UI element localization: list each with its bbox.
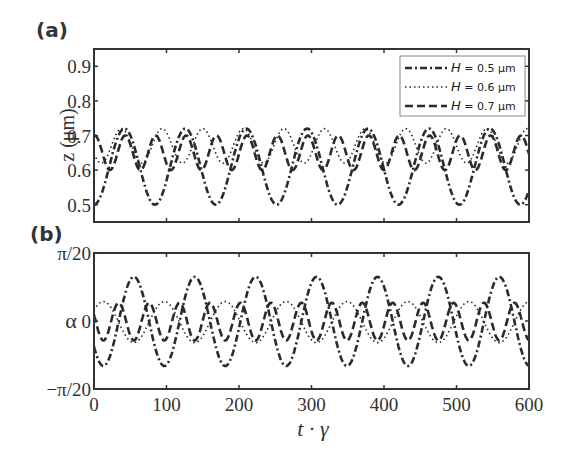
x-tick-label: 500 bbox=[442, 394, 471, 415]
legend: H = 0.5 μmH = 0.6 μmH = 0.7 μm bbox=[400, 56, 525, 116]
y-axis-label-a: z (μm) bbox=[56, 108, 79, 161]
y-tick-label: 0.6 bbox=[67, 160, 91, 181]
x-axis-label: t · γ bbox=[297, 416, 330, 441]
panel-b-plot: 0100200300400500600−π/200π/20 bbox=[46, 243, 543, 415]
series-line bbox=[94, 302, 529, 343]
x-tick-label: 600 bbox=[515, 394, 544, 415]
y-tick-label: 0.9 bbox=[67, 56, 91, 77]
x-tick-label: 400 bbox=[370, 394, 399, 415]
legend-entry: H = 0.7 μm bbox=[451, 98, 516, 113]
series-line bbox=[94, 136, 529, 171]
series-line bbox=[94, 277, 529, 366]
x-tick-label: 300 bbox=[297, 394, 326, 415]
y-tick-label: 0.5 bbox=[67, 195, 91, 216]
y-axis-label-b: α bbox=[65, 308, 77, 333]
y-tick-label: π/20 bbox=[57, 243, 91, 264]
figure-canvas: 0.50.60.70.80.9 0100200300400500600−π/20… bbox=[0, 0, 567, 463]
x-tick-label: 200 bbox=[225, 394, 254, 415]
y-tick-label: 0 bbox=[82, 311, 92, 332]
x-tick-label: 100 bbox=[152, 394, 181, 415]
legend-entry: H = 0.5 μm bbox=[451, 60, 516, 75]
plot-frame bbox=[94, 253, 529, 389]
series-line bbox=[94, 303, 529, 341]
y-tick-label: −π/20 bbox=[46, 379, 91, 400]
legend-entry: H = 0.6 μm bbox=[451, 79, 516, 94]
